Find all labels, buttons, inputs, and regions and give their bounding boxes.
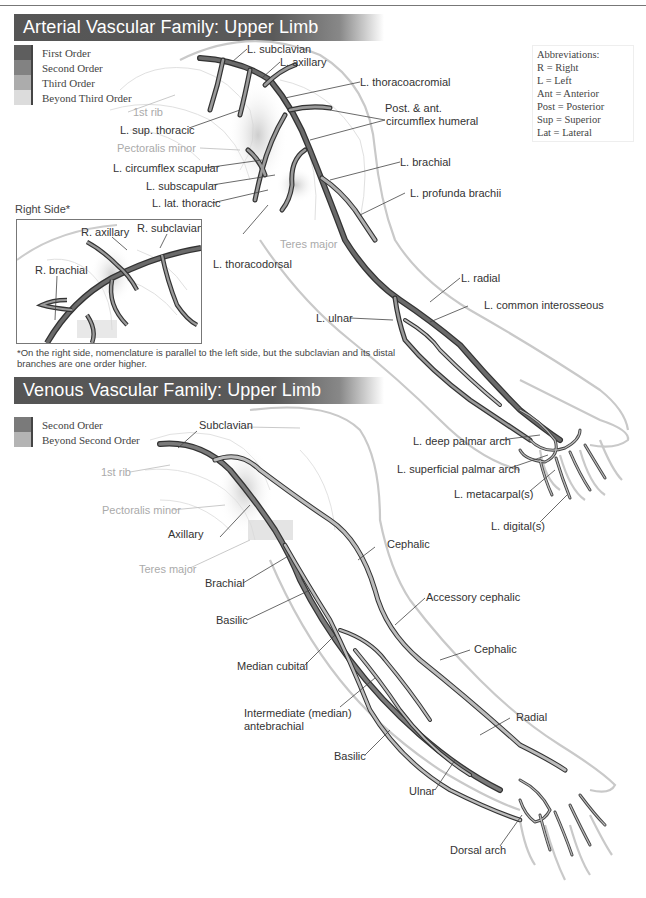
label-l-circumflex-scapular: L. circumflex scapular [113,162,219,174]
label-circumflex-humeral-line1: Post. & ant. [385,102,442,114]
label-cephalic-upper: Cephalic [387,538,430,550]
label-r-subclavian: R. subclavian [137,222,202,234]
venous-muscle-leaders [130,427,300,568]
label-median-cubital: Median cubital [237,660,308,672]
label-cephalic-lower: Cephalic [474,643,517,655]
right-side-inset: R. axillary R. subclavian R. brachial [16,219,202,344]
label-l-profunda-brachii: L. profunda brachii [410,187,501,199]
label-brachial: Brachial [205,577,245,589]
label-l-thoracodorsal: L. thoracodorsal [213,258,292,270]
label-intermediate-line1: Intermediate (median) [244,707,352,719]
label-l-axillary: L. axillary [280,56,326,68]
swatch-beyond-second-order [14,432,33,447]
label-l-deep-palmar-arch: L. deep palmar arch [413,435,511,447]
teres-major-shade [276,167,316,203]
legend-item-beyond-second-order: Beyond Second Order [14,432,140,447]
label-pectoralis-minor: Pectoralis minor [117,142,196,154]
label-first-rib: 1st rib [133,106,163,118]
label-l-metacarpals: L. metacarpal(s) [454,488,533,500]
label-basilic-lower: Basilic [334,750,366,762]
label-circumflex-humeral-line2: circumflex humeral [386,115,478,127]
label-l-brachial: L. brachial [400,156,451,168]
right-side-illustration [17,220,201,343]
label-l-sup-thoracic: L. sup. thoracic [120,124,195,136]
label-l-radial: L. radial [461,272,500,284]
label-first-rib-venous: 1st rib [101,466,131,478]
label-r-brachial: R. brachial [35,264,88,276]
label-axillary: Axillary [168,528,203,540]
label-l-digitals: L. digital(s) [491,520,545,532]
legend-label: Second Order [42,419,103,431]
inset-title: Right Side* [15,203,70,215]
label-l-lat-thoracic: L. lat. thoracic [152,197,220,209]
label-l-thoracoacromial: L. thoracoacromial [360,76,451,88]
swatch-second-order [14,417,33,432]
label-l-subclavian: L. subclavian [247,43,311,55]
label-intermediate-line2: antebrachial [244,720,304,732]
footnote: *On the right side, nomenclature is para… [17,347,397,369]
label-teres-major: Teres major [280,238,337,250]
venous-arm-outline [250,408,615,881]
label-l-ulnar: L. ulnar [316,312,353,324]
label-l-superficial-palmar-arch: L. superficial palmar arch [397,463,520,475]
label-ulnar: Ulnar [409,785,435,797]
label-teres-major-venous: Teres major [139,563,196,575]
label-r-axillary: R. axillary [81,226,129,238]
label-radial: Radial [516,711,547,723]
label-l-common-interosseous: L. common interosseous [484,299,604,311]
label-pectoralis-minor-venous: Pectoralis minor [102,504,181,516]
label-accessory-cephalic: Accessory cephalic [426,591,520,603]
label-dorsal-arch: Dorsal arch [450,844,506,856]
legend-label: Beyond Second Order [42,434,140,446]
venous-legend: Second Order Beyond Second Order [14,417,140,447]
anatomy-illustration [0,0,646,898]
label-l-subscapular: L. subscapular [146,180,218,192]
label-basilic-upper: Basilic [216,614,248,626]
venous-section-title: Venous Vascular Family: Upper Limb [14,377,384,404]
legend-item-second-order: Second Order [14,417,140,432]
label-subclavian: Subclavian [199,419,253,431]
